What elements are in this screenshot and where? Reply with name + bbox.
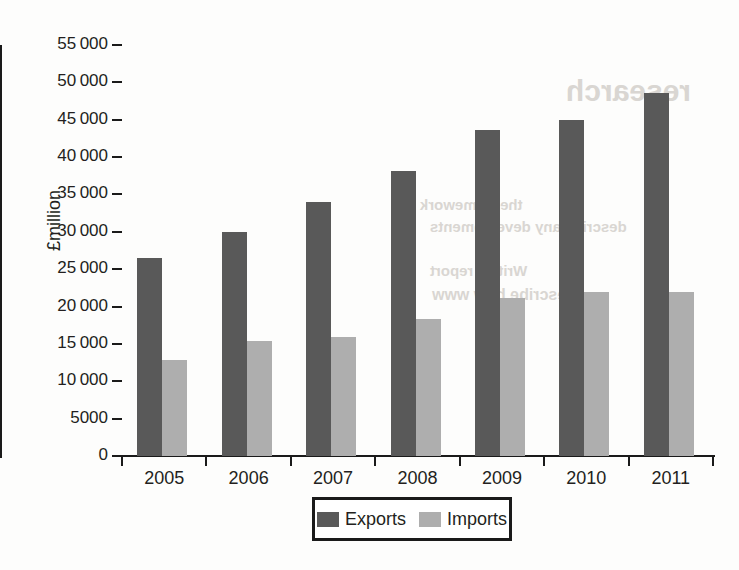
bar-exports-2008: [391, 171, 416, 456]
x-axis-tick: [543, 455, 545, 466]
x-axis-tick: [374, 455, 376, 466]
x-axis-tick-label: 2010: [546, 468, 626, 489]
x-axis-tick-label: 2006: [209, 468, 289, 489]
bar-exports-2007: [306, 202, 331, 456]
bar-imports-2011: [669, 292, 694, 456]
legend-item-imports[interactable]: Imports: [419, 509, 507, 530]
x-axis-tick: [121, 455, 123, 466]
y-axis-tick: [112, 44, 122, 46]
y-axis-tick: [112, 193, 122, 195]
y-axis-tick-label: 0: [0, 445, 108, 465]
legend-swatch-exports-icon: [317, 512, 339, 527]
y-axis-tick: [112, 156, 122, 158]
y-axis-tick-label: 25 000: [0, 258, 108, 278]
y-axis-tick-label: 15 000: [0, 333, 108, 353]
chart-legend: Exports Imports: [312, 497, 512, 541]
y-axis-tick: [112, 119, 122, 121]
legend-label-exports: Exports: [345, 509, 406, 530]
y-axis-tick-label: 45 000: [0, 109, 108, 129]
y-axis-tick-label: 20 000: [0, 296, 108, 316]
y-axis-tick: [112, 418, 122, 420]
legend-label-imports: Imports: [447, 509, 507, 530]
bar-imports-2010: [584, 292, 609, 456]
y-axis-tick: [112, 306, 122, 308]
y-axis-line: [0, 45, 2, 458]
bar-exports-2010: [559, 120, 584, 456]
x-axis-tick-label: 2007: [293, 468, 373, 489]
y-axis-tick-label: 35 000: [0, 183, 108, 203]
y-axis-tick-label: 40 000: [0, 146, 108, 166]
bar-imports-2008: [416, 319, 441, 456]
y-axis-tick: [112, 343, 122, 345]
x-axis-tick: [712, 455, 714, 466]
x-axis-tick-label: 2005: [124, 468, 204, 489]
bar-exports-2009: [475, 130, 500, 456]
y-axis-tick: [112, 231, 122, 233]
x-axis-tick-label: 2011: [631, 468, 711, 489]
y-axis-tick: [112, 380, 122, 382]
bar-exports-2006: [222, 232, 247, 456]
x-axis-tick: [205, 455, 207, 466]
bar-chart: research the framework describe any deve…: [0, 0, 739, 570]
legend-item-exports[interactable]: Exports: [317, 509, 406, 530]
y-axis-tick-label: 5000: [0, 408, 108, 428]
bars-layer: [122, 45, 713, 456]
x-axis-tick: [628, 455, 630, 466]
bar-imports-2005: [162, 360, 187, 456]
x-axis-tick: [290, 455, 292, 466]
x-axis-tick-label: 2008: [378, 468, 458, 489]
legend-swatch-imports-icon: [419, 512, 441, 527]
y-axis-tick-label: 10 000: [0, 370, 108, 390]
y-axis-tick-label: 55 000: [0, 34, 108, 54]
bar-exports-2005: [137, 258, 162, 456]
y-axis-tick-label: 30 000: [0, 221, 108, 241]
bar-imports-2006: [247, 341, 272, 456]
bar-imports-2007: [331, 337, 356, 456]
y-axis-tick: [112, 268, 122, 270]
bar-exports-2011: [644, 93, 669, 456]
x-axis-tick-label: 2009: [462, 468, 542, 489]
y-axis-tick-label: 50 000: [0, 71, 108, 91]
bar-imports-2009: [500, 298, 525, 456]
y-axis-tick: [112, 81, 122, 83]
x-axis-tick: [459, 455, 461, 466]
